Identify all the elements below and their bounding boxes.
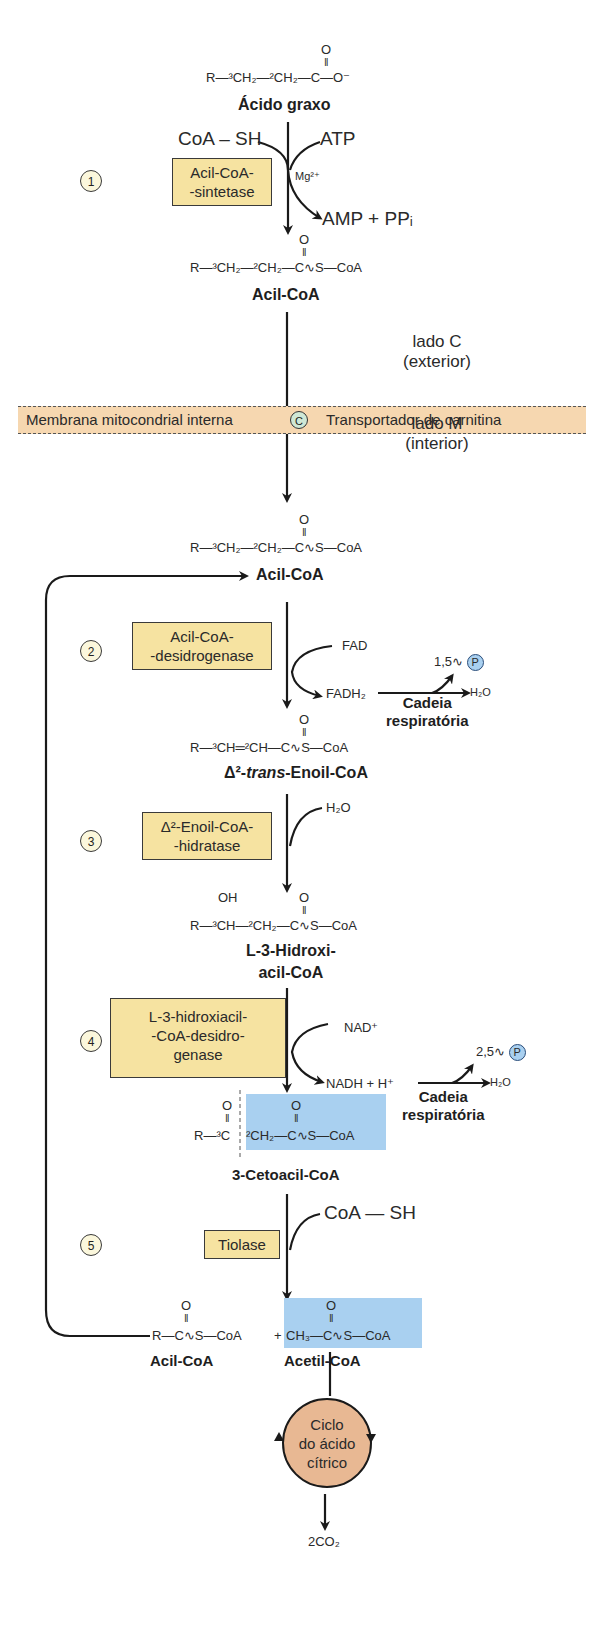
citric-acid-cycle: Ciclo do ácido cítrico: [282, 1398, 372, 1488]
name-prefix: Δ²-: [224, 764, 246, 781]
side-m-line1: lado M: [392, 414, 482, 434]
enzyme-acyl-coa-dehydrogenase: Acil-CoA- -desidrogenase: [132, 622, 272, 670]
ketoacyl-formula-left: R—³C: [194, 1128, 230, 1143]
double-bond: ‖: [294, 1112, 299, 1124]
amp-ppi-output: AMP + PPᵢ: [322, 208, 413, 230]
atp-yield-1-5: 1,5∿ P: [434, 654, 484, 671]
carbonyl-o: O: [326, 1298, 336, 1313]
acyl-coa-inner-formula: R—³CH₂—²CH₂—C∿S—CoA: [190, 540, 362, 555]
atp-input: ATP: [320, 128, 356, 150]
step-5-badge: 5: [80, 1234, 102, 1256]
acyl-coa-product-formula: R—C∿S—CoA: [152, 1328, 242, 1343]
respiratory-chain-label: Cadeia respiratória: [402, 1088, 485, 1124]
acetyl-coa-formula: CH₃—C∿S—CoA: [286, 1328, 390, 1343]
enzyme-line: -hidratase: [151, 836, 263, 855]
step-1-badge: 1: [80, 170, 102, 192]
double-bond: ‖: [302, 904, 307, 916]
cycle-line3: cítrico: [307, 1453, 347, 1472]
phosphate-icon: P: [467, 654, 484, 671]
enzyme-hydroxyacyl-coa-dehydrogenase: L-3-hidroxiacil- -CoA-desidro- genase: [110, 998, 286, 1078]
side-m-line2: (interior): [392, 434, 482, 454]
water-output: H₂O: [470, 686, 491, 698]
carnitine-transporter-icon: C: [290, 411, 308, 429]
mg-cofactor: Mg²⁺: [295, 170, 320, 183]
ketoacyl-formula-right: ²CH₂—C∿S—CoA: [246, 1128, 355, 1143]
water-input: H₂O: [326, 800, 351, 815]
enzyme-line: -sintetase: [181, 182, 263, 201]
hydroxyacyl-coa-name: L-3-Hidroxi- acil-CoA: [246, 940, 336, 984]
enzyme-line: -CoA-desidro-: [119, 1026, 277, 1045]
chain-line1: Cadeia: [402, 1088, 485, 1106]
double-bond: ‖: [302, 726, 307, 738]
acyl-coa-inner-name: Acil-CoA: [256, 566, 324, 584]
fad-input: FAD: [342, 638, 367, 653]
carbonyl-o: O: [299, 712, 309, 727]
name-line1: L-3-Hidroxi-: [246, 940, 336, 962]
cycle-line1: Ciclo: [310, 1415, 343, 1434]
enzyme-line: -desidrogenase: [141, 646, 263, 665]
carbonyl-o: O: [222, 1098, 232, 1113]
enoyl-coa-formula: R—³CH═²CH—C∿S—CoA: [190, 740, 348, 755]
enzyme-acyl-coa-synthetase: Acil-CoA- -sintetase: [172, 158, 272, 206]
atp-yield-value: 2,5∿: [476, 1044, 505, 1059]
double-bond: ‖: [225, 1112, 230, 1124]
membrane-label: Membrana mitocondrial interna: [26, 411, 233, 428]
fadh2-output: FADH₂: [326, 686, 366, 701]
name-suffix: -Enoil-CoA: [285, 764, 368, 781]
enzyme-line: Acil-CoA-: [181, 163, 263, 182]
side-c-line1: lado C: [392, 332, 482, 352]
nad-input: NAD⁺: [344, 1020, 378, 1035]
carbonyl-o: O: [299, 890, 309, 905]
side-m-label: lado M (interior): [392, 414, 482, 454]
acyl-coa-outer-formula: R—³CH₂—²CH₂—C∿S—CoA: [190, 260, 362, 275]
ketoacyl-coa-name: 3-Cetoacil-CoA: [232, 1166, 340, 1183]
enzyme-thiolase: Tiolase: [204, 1230, 280, 1259]
enzyme-line: Δ²-Enoil-CoA-: [151, 817, 263, 836]
double-bond: ‖: [302, 246, 307, 258]
double-bond: ‖: [184, 1312, 189, 1324]
chain-line2: respiratória: [386, 712, 469, 730]
plus-sign: +: [274, 1328, 282, 1343]
acyl-coa-outer-name: Acil-CoA: [252, 286, 320, 304]
hydroxyacyl-coa-formula: R—³CH—²CH₂—C∿S—CoA: [190, 918, 357, 933]
acetyl-coa-name: Acetil-CoA: [284, 1352, 361, 1369]
coa-sh-input: CoA – SH: [178, 128, 261, 150]
cycle-line2: do ácido: [299, 1434, 356, 1453]
name-italic: trans: [246, 764, 285, 781]
double-bond: ‖: [329, 1312, 334, 1324]
atp-yield-2-5: 2,5∿ P: [476, 1044, 526, 1061]
enzyme-line: genase: [119, 1045, 277, 1064]
nadh-output: NADH + H⁺: [326, 1076, 394, 1091]
phosphate-icon: P: [509, 1044, 526, 1061]
cycle-arrow-down-icon: [366, 1434, 376, 1443]
enzyme-enoyl-coa-hydratase: Δ²-Enoil-CoA- -hidratase: [142, 812, 272, 860]
side-c-label: lado C (exterior): [392, 332, 482, 372]
enzyme-line: L-3-hidroxiacil-: [119, 1007, 277, 1026]
enzyme-line: Acil-CoA-: [141, 627, 263, 646]
coa-sh-input: CoA — SH: [324, 1202, 416, 1224]
co2-output: 2CO₂: [308, 1534, 340, 1549]
step-4-badge: 4: [80, 1030, 102, 1052]
double-bond: ‖: [324, 56, 329, 68]
fatty-acid-name: Ácido graxo: [238, 96, 330, 114]
carbonyl-o: O: [299, 232, 309, 247]
carbonyl-o: O: [291, 1098, 301, 1113]
respiratory-chain-label: Cadeia respiratória: [386, 694, 469, 730]
side-c-line2: (exterior): [392, 352, 482, 372]
cycle-arrow-up-icon: [274, 1432, 284, 1441]
water-output: H₂O: [490, 1076, 511, 1088]
name-line2: acil-CoA: [246, 962, 336, 984]
fatty-acid-carbonyl-o: O: [321, 42, 331, 57]
step-2-badge: 2: [80, 640, 102, 662]
double-bond: ‖: [302, 526, 307, 538]
chain-line1: Cadeia: [386, 694, 469, 712]
step-3-badge: 3: [80, 830, 102, 852]
carbonyl-o: O: [299, 512, 309, 527]
acyl-coa-product-name: Acil-CoA: [150, 1352, 213, 1369]
chain-line2: respiratória: [402, 1106, 485, 1124]
hydroxyl-group: OH: [218, 890, 238, 905]
fatty-acid-formula: R—³CH₂—²CH₂—C—O⁻: [206, 70, 350, 85]
enoyl-coa-name: Δ²-trans-Enoil-CoA: [224, 764, 368, 782]
carbonyl-o: O: [181, 1298, 191, 1313]
atp-yield-value: 1,5∿: [434, 654, 463, 669]
